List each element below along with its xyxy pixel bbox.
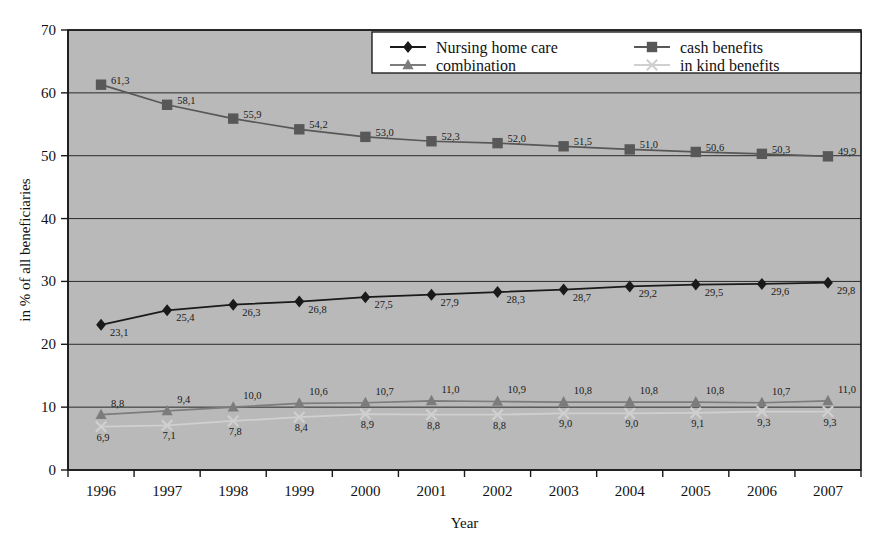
y-tick-label-30: 30 — [41, 273, 56, 289]
marker-square — [426, 136, 436, 146]
y-tick-label-70: 70 — [41, 22, 56, 38]
line-chart: 0102030405060701996199719981999200020012… — [0, 0, 883, 546]
data-label-combination-2006: 10,7 — [772, 386, 790, 397]
data-label-in-kind-benefits-2005: 9,1 — [691, 418, 704, 429]
data-label-combination-1998: 10,0 — [243, 390, 261, 401]
y-axis-title: in % of all beneficiaries — [17, 178, 33, 321]
data-label-cash-benefits-2007: 49,9 — [838, 146, 856, 157]
data-label-in-kind-benefits-2000: 8,9 — [361, 419, 374, 430]
x-tick-label-2006: 2006 — [747, 483, 778, 499]
y-tick-label-0: 0 — [49, 462, 57, 478]
marker-square — [96, 79, 106, 89]
x-tick-label-2001: 2001 — [416, 483, 446, 499]
legend-label: cash benefits — [680, 39, 763, 56]
data-label-cash-benefits-2004: 51,0 — [640, 139, 658, 150]
marker-square — [492, 138, 502, 148]
data-label-cash-benefits-1996: 61,3 — [111, 75, 129, 86]
marker-square — [294, 124, 304, 134]
data-label-nursing-home-care-2007: 29,8 — [837, 285, 855, 296]
marker-square — [823, 151, 833, 161]
data-label-in-kind-benefits-2001: 8,8 — [427, 420, 440, 431]
data-label-in-kind-benefits-2004: 9,0 — [625, 418, 638, 429]
data-label-in-kind-benefits-1997: 7,1 — [163, 430, 176, 441]
data-label-nursing-home-care-2005: 29,5 — [705, 287, 723, 298]
x-tick-label-2002: 2002 — [483, 483, 513, 499]
data-label-cash-benefits-2005: 50,6 — [706, 142, 724, 153]
chart-container: 0102030405060701996199719981999200020012… — [0, 0, 883, 546]
data-label-nursing-home-care-2001: 27,9 — [440, 297, 458, 308]
data-label-in-kind-benefits-2006: 9,3 — [757, 417, 770, 428]
marker-square — [360, 132, 370, 142]
x-tick-label-1997: 1997 — [152, 483, 183, 499]
y-tick-label-60: 60 — [41, 85, 56, 101]
marker-square — [558, 141, 568, 151]
marker-square — [162, 100, 172, 110]
y-tick-label-10: 10 — [41, 399, 56, 415]
x-tick-label-2000: 2000 — [350, 483, 380, 499]
data-label-cash-benefits-2006: 50,3 — [772, 144, 790, 155]
x-tick-label-2003: 2003 — [549, 483, 579, 499]
x-axis-title: Year — [451, 515, 479, 531]
data-label-cash-benefits-2001: 52,3 — [441, 131, 459, 142]
data-label-in-kind-benefits-1998: 7,8 — [229, 426, 242, 437]
data-label-in-kind-benefits-1999: 8,4 — [295, 422, 309, 433]
data-label-cash-benefits-1999: 54,2 — [309, 119, 327, 130]
data-label-combination-2007: 11,0 — [838, 384, 856, 395]
x-tick-label-2005: 2005 — [681, 483, 711, 499]
marker-square — [757, 149, 767, 159]
marker-square — [228, 113, 238, 123]
data-label-nursing-home-care-2002: 28,3 — [507, 294, 525, 305]
data-label-cash-benefits-1998: 55,9 — [243, 109, 261, 120]
data-label-nursing-home-care-1997: 25,4 — [176, 312, 195, 323]
marker-square — [625, 144, 635, 154]
data-label-combination-2004: 10,8 — [640, 385, 658, 396]
data-label-combination-1999: 10,6 — [309, 386, 327, 397]
y-tick-label-50: 50 — [41, 148, 56, 164]
data-label-combination-2001: 11,0 — [441, 384, 459, 395]
x-tick-label-2007: 2007 — [813, 483, 844, 499]
data-label-combination-2002: 10,9 — [508, 384, 526, 395]
data-label-combination-2003: 10,8 — [574, 385, 592, 396]
x-tick-label-2004: 2004 — [615, 483, 646, 499]
data-label-in-kind-benefits-2003: 9,0 — [559, 418, 572, 429]
data-label-in-kind-benefits-2002: 8,8 — [493, 420, 506, 431]
y-tick-label-40: 40 — [41, 211, 56, 227]
x-tick-label-1998: 1998 — [218, 483, 248, 499]
x-tick-label-1999: 1999 — [284, 483, 314, 499]
y-tick-label-20: 20 — [41, 336, 56, 352]
data-label-nursing-home-care-2006: 29,6 — [771, 286, 789, 297]
data-label-cash-benefits-1997: 58,1 — [177, 95, 195, 106]
data-label-combination-1996: 8,8 — [111, 398, 124, 409]
data-label-cash-benefits-2000: 53,0 — [375, 127, 393, 138]
x-tick-label-1996: 1996 — [86, 483, 117, 499]
data-label-in-kind-benefits-1996: 6,9 — [96, 432, 109, 443]
data-label-cash-benefits-2003: 51,5 — [574, 136, 592, 147]
data-label-nursing-home-care-1999: 26,8 — [308, 304, 326, 315]
data-label-combination-2005: 10,8 — [706, 385, 724, 396]
data-label-nursing-home-care-2000: 27,5 — [374, 299, 392, 310]
data-label-cash-benefits-2002: 52,0 — [508, 133, 526, 144]
data-label-nursing-home-care-1996: 23,1 — [110, 327, 128, 338]
marker-square — [691, 147, 701, 157]
data-label-nursing-home-care-1998: 26,3 — [242, 307, 260, 318]
data-label-combination-1997: 9,4 — [177, 394, 191, 405]
data-label-nursing-home-care-2004: 29,2 — [639, 288, 657, 299]
data-label-in-kind-benefits-2007: 9,3 — [823, 417, 836, 428]
data-label-combination-2000: 10,7 — [375, 386, 393, 397]
legend-label: Nursing home care — [436, 39, 558, 57]
legend-label: in kind benefits — [680, 57, 780, 74]
marker-square — [647, 42, 657, 52]
data-label-nursing-home-care-2003: 28,7 — [573, 292, 591, 303]
legend-label: combination — [436, 57, 516, 74]
